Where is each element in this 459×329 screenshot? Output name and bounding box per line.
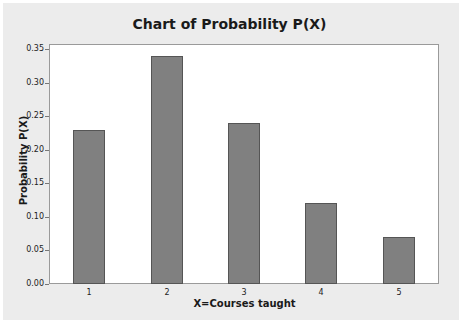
y-tick-label: 0.05	[12, 245, 44, 254]
y-tick-mark	[45, 250, 49, 251]
y-tick-mark	[45, 183, 49, 184]
bar-x-3	[228, 123, 260, 284]
bar-x-1	[73, 130, 105, 284]
y-tick-label: 0.35	[12, 44, 44, 53]
x-tick-label: 3	[234, 288, 254, 297]
y-tick-label: 0.15	[12, 178, 44, 187]
y-tick-label: 0.25	[12, 111, 44, 120]
x-axis-label: X=Courses taught	[0, 298, 459, 309]
y-tick-mark	[45, 217, 49, 218]
y-axis-label: Probability P(X)	[18, 111, 29, 211]
x-tick-label: 5	[389, 288, 409, 297]
y-tick-mark	[45, 116, 49, 117]
y-tick-label: 0.10	[12, 212, 44, 221]
bar-x-5	[383, 237, 415, 284]
x-tick-label: 4	[311, 288, 331, 297]
bar-x-4	[305, 203, 337, 284]
chart-title: Chart of Probability P(X)	[0, 16, 459, 32]
x-tick-label: 1	[79, 288, 99, 297]
y-tick-label: 0.30	[12, 78, 44, 87]
y-tick-label: 0.00	[12, 279, 44, 288]
x-tick-label: 2	[157, 288, 177, 297]
y-tick-label: 0.20	[12, 145, 44, 154]
y-tick-mark	[45, 83, 49, 84]
bar-x-2	[151, 56, 183, 284]
y-tick-mark	[45, 150, 49, 151]
y-tick-mark	[45, 49, 49, 50]
y-tick-mark	[45, 284, 49, 285]
